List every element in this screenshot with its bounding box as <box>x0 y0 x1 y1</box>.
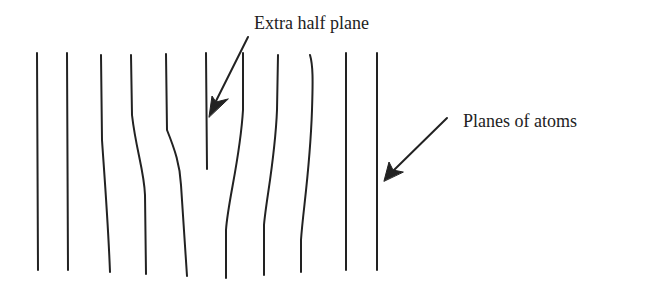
atom-plane-line <box>67 53 68 270</box>
extra-half-plane-line <box>206 53 207 169</box>
atom-plane-line <box>264 55 278 275</box>
arrow-planes-of-atoms-shaft <box>393 118 447 171</box>
atom-plane-line <box>37 53 38 270</box>
pointer-arrows <box>209 37 447 181</box>
planes-of-atoms-label: Planes of atoms <box>463 112 577 130</box>
atom-plane-line <box>131 55 146 274</box>
atom-plane-line <box>226 53 243 278</box>
arrowhead-icon <box>209 96 228 117</box>
atom-plane-line <box>301 55 313 272</box>
atom-plane-line <box>101 55 110 272</box>
edge-dislocation-diagram <box>0 0 646 293</box>
atom-plane-line <box>166 54 187 276</box>
extra-half-plane-label: Extra half plane <box>254 14 369 32</box>
atom-planes <box>37 53 377 278</box>
